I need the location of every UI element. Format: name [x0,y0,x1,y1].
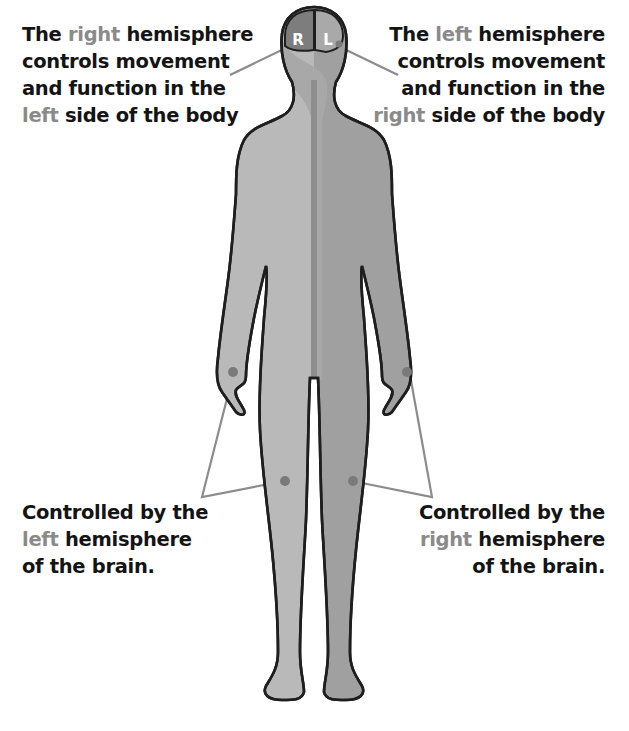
text: and function in the [401,77,605,100]
callout-left-side-control: Controlled by the left hemisphere of the… [22,499,208,580]
highlight-word: right [68,23,120,46]
left-leg-dot [280,476,290,486]
text: of the brain. [472,555,605,578]
brain-right-label: R [292,31,304,49]
text: controls movement [397,50,605,73]
text: The [389,23,435,46]
right-hand-dot [402,367,412,377]
text: side of the body [425,104,605,127]
callout-left-hemisphere: The left hemisphere controls movement an… [373,21,605,129]
text: The [22,23,68,46]
text: controls movement [22,50,230,73]
callout-right-hemisphere: The right hemisphere controls movement a… [22,21,253,129]
right-leg-dot [348,476,358,486]
text: side of the body [59,104,239,127]
highlight-word: left [435,23,472,46]
text: hemisphere [472,23,605,46]
text: hemisphere [472,528,605,551]
highlight-word: right [420,528,472,551]
text: hemisphere [59,528,192,551]
text: hemisphere [120,23,253,46]
highlight-word: left [22,104,59,127]
text: Controlled by the [22,501,208,524]
highlight-word: right [373,104,425,127]
brain: R L [285,10,343,52]
brain-left-label: L [323,31,333,49]
text: and function in the [22,77,226,100]
text: of the brain. [22,555,155,578]
brain-left-dot [336,41,343,48]
text: Controlled by the [419,501,605,524]
callout-right-side-control: Controlled by the right hemisphere of th… [419,499,605,580]
highlight-word: left [22,528,59,551]
left-hand-dot [228,367,238,377]
